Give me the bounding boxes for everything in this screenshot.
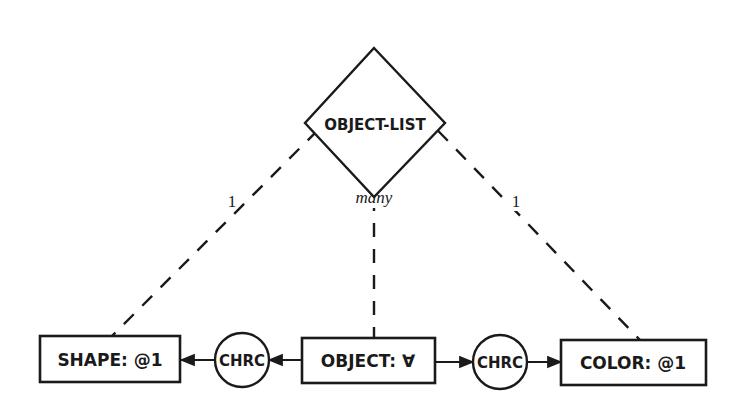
shape-entity-box[interactable]: SHAPE: @1 <box>40 336 180 382</box>
shape-entity-label: SHAPE: @1 <box>57 350 162 370</box>
chrc-right-relation[interactable]: CHRC <box>473 335 527 389</box>
diagram-canvas: 1 many 1 OBJECT-LIST SHAPE: @1 OBJECT: ∀… <box>0 0 745 409</box>
cardinality-label-color: 1 <box>512 192 521 211</box>
cardinality-label-shape: 1 <box>228 192 237 211</box>
chrc-left-label: CHRC <box>219 352 265 370</box>
chrc-right-label: CHRC <box>477 354 523 372</box>
color-entity-label: COLOR: @1 <box>580 353 686 373</box>
color-entity-box[interactable]: COLOR: @1 <box>561 340 706 385</box>
chrc-left-relation[interactable]: CHRC <box>215 333 269 387</box>
object-list-node[interactable]: OBJECT-LIST <box>305 48 445 197</box>
link-objectlist-to-color <box>420 112 640 340</box>
object-entity-box[interactable]: OBJECT: ∀ <box>302 338 435 383</box>
object-entity-label: OBJECT: ∀ <box>321 351 416 371</box>
link-objectlist-to-shape <box>112 112 336 336</box>
object-list-label: OBJECT-LIST <box>324 116 426 134</box>
